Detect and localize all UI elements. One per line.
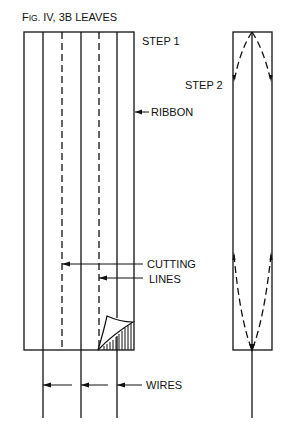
arrow-left-icon <box>81 383 89 388</box>
arrow-left-icon <box>62 262 70 267</box>
step2-label: STEP 2 <box>185 79 223 91</box>
leaf-outline-top-right <box>252 32 271 82</box>
leaf-outline-bottom-left <box>234 255 252 350</box>
ribbon-label: RIBBON <box>151 106 193 118</box>
leaf-outline-bottom-right <box>252 255 271 350</box>
step1-panel <box>24 32 134 418</box>
figure-title: FIG. IV, 3B LEAVES <box>22 11 117 23</box>
arrow-left-icon <box>99 276 107 281</box>
peeled-corner-icon <box>98 316 133 350</box>
arrow-left-icon <box>43 383 51 388</box>
leaf-diagram: FIG. IV, 3B LEAVES <box>0 0 292 432</box>
cutting-lines-pointers <box>62 262 143 281</box>
lines-label: LINES <box>149 273 181 285</box>
wires-label: WIRES <box>146 379 182 391</box>
arrow-left-icon <box>135 110 142 115</box>
ribbon-pointer <box>135 110 149 115</box>
step2-panel <box>233 32 273 418</box>
leaf-outline-top-left <box>234 32 252 82</box>
arrow-left-icon <box>117 383 125 388</box>
wires-pointers <box>43 383 142 388</box>
step1-label: STEP 1 <box>142 35 180 47</box>
cutting-label: CUTTING <box>147 258 196 270</box>
